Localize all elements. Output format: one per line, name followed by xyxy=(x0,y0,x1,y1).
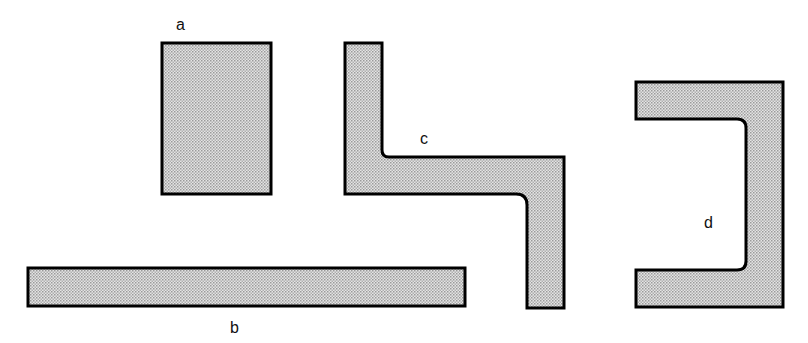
shape-d: d xyxy=(636,82,783,307)
shape-a: a xyxy=(162,16,271,194)
shapes-diagram: a b c d xyxy=(0,0,808,343)
shape-b-label: b xyxy=(230,319,239,336)
shape-b: b xyxy=(28,268,465,336)
shape-c-label: c xyxy=(420,130,428,147)
shape-d-label: d xyxy=(704,214,713,231)
shape-a-label: a xyxy=(176,16,185,33)
